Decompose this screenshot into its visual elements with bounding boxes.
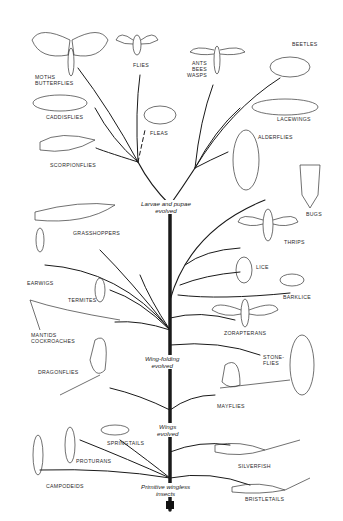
milestone-larvae-pupae: Larvae and pupae evolved [140,200,192,214]
label-scorpionflies: Scorpionflies [50,162,96,168]
label-proturans: Proturans [76,458,111,464]
label-caddisflies: Caddisflies [46,114,83,120]
stonefly-drawing [290,335,314,395]
lacewing-drawing [252,99,318,115]
milestone-wing-folding: Wing-folding evolved [144,355,180,369]
label-lice: Lice [256,264,269,270]
label-silverfish: Silverfish [238,463,271,469]
label-springtails: Springtails [107,440,144,446]
insect-evolution-tree: Larvae and pupae evolved Wing-folding ev… [0,0,343,521]
beetle-drawing [270,57,310,77]
label-bristletails: Bristletails [245,496,284,502]
proturan-drawing [65,427,75,463]
label-beetles: Beetles [292,41,317,47]
label-ants-bees-wasps: Ants Bees Wasps [187,60,207,78]
label-flies: Flies [133,62,149,68]
label-campodeids: Campodeids [46,483,84,489]
mayfly-drawing [220,363,290,389]
bug-drawing [300,165,320,208]
label-dragonflies: Dragonflies [38,369,78,375]
silverfish-drawing [215,440,300,455]
grasshopper-drawing [35,204,115,221]
dragonfly-drawing [60,338,106,395]
label-moths-butterflies: Moths Butterflies [35,74,73,86]
milestone-primitive-wingless: Primitive wingless insects [140,483,191,497]
label-stoneflies: Stone- flies [263,354,284,366]
label-termites: Termites [68,297,97,303]
label-earwigs: Earwigs [27,280,54,286]
label-alderflies: Alderflies [258,134,293,140]
label-zorapterans: Zorapterans [224,330,266,336]
wasp-drawing [214,46,220,74]
thrips-drawing [263,209,273,241]
springtail-drawing [101,425,129,435]
milestone-wings: Wings evolved [156,423,179,437]
mantis-drawing [30,300,120,330]
caddisfly-drawing [33,95,87,111]
label-grasshoppers: Grasshoppers [73,230,120,236]
label-mayflies: Mayflies [217,403,245,409]
label-bugs: Bugs [306,211,322,217]
earwig-drawing [36,228,44,252]
zorapteran-drawing [241,299,249,327]
alderfly-drawing [233,130,259,190]
fly-drawing [133,35,141,55]
label-fleas: Fleas [150,130,168,136]
campodeid-drawing [33,435,43,475]
bristletail-drawing [232,478,310,493]
louse-drawing [236,257,252,283]
trunk-base-marker [166,501,174,509]
moth-drawing [32,33,108,57]
barklouse-drawing [280,274,304,286]
label-thrips: Thrips [284,239,305,245]
flea-drawing [144,106,176,124]
label-mantids-cockroaches: Mantids Cockroaches [31,332,75,344]
label-barklice: Barklice [283,294,311,300]
scorpionfly-drawing [40,135,95,151]
label-lacewings: Lacewings [277,116,311,122]
